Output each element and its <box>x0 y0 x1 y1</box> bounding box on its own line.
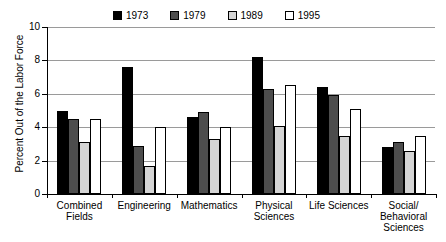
category-tick <box>112 194 113 198</box>
bar-1989 <box>274 126 285 194</box>
category-tick <box>242 194 243 198</box>
y-axis-tick <box>42 94 47 95</box>
bar-group <box>47 27 112 194</box>
legend-entry-1979: 1979 <box>170 11 205 21</box>
bar-1973 <box>252 57 263 194</box>
bar-1989 <box>339 136 350 194</box>
bar-1979 <box>68 119 79 194</box>
bar-chart: 1973197919891995 0246810 Percent Out of … <box>0 0 446 242</box>
bar-1989 <box>209 139 220 194</box>
category-label: Combined Fields <box>47 200 112 222</box>
bar-1979 <box>198 112 209 194</box>
bar-1979 <box>393 142 404 194</box>
legend-label: 1995 <box>298 11 320 21</box>
category-label: Engineering <box>112 200 177 211</box>
bar-group <box>242 27 307 194</box>
category-label: Mathematics <box>177 200 242 211</box>
legend-label: 1973 <box>126 11 148 21</box>
y-axis-tick <box>42 60 47 61</box>
category-label: Life Sciences <box>306 200 371 211</box>
bars-layer <box>47 27 436 194</box>
bar-1995 <box>155 127 166 194</box>
category-tick <box>436 194 437 198</box>
category-tick <box>177 194 178 198</box>
category-tick <box>306 194 307 198</box>
legend-label: 1979 <box>183 11 205 21</box>
bar-1973 <box>57 111 68 195</box>
bar-group <box>112 27 177 194</box>
category-tick <box>371 194 372 198</box>
bar-1973 <box>122 67 133 194</box>
bar-1979 <box>133 146 144 194</box>
chart-legend: 1973197919891995 <box>113 9 343 22</box>
legend-swatch-icon <box>113 11 122 20</box>
y-axis-tick <box>42 161 47 162</box>
category-label: Physical Sciences <box>242 200 307 222</box>
bar-1973 <box>317 87 328 194</box>
bar-1989 <box>79 142 90 194</box>
bar-group <box>306 27 371 194</box>
bar-1995 <box>90 119 101 194</box>
legend-entry-1995: 1995 <box>285 11 320 21</box>
bar-1979 <box>328 95 339 194</box>
legend-entry-1989: 1989 <box>228 11 263 21</box>
bar-group <box>371 27 436 194</box>
y-axis-tick-label: 0 <box>2 189 40 199</box>
legend-label: 1989 <box>241 11 263 21</box>
legend-swatch-icon <box>285 11 294 20</box>
y-axis-tick <box>42 127 47 128</box>
y-axis-tick <box>42 27 47 28</box>
legend-entry-1973: 1973 <box>113 11 148 21</box>
bar-1979 <box>263 89 274 194</box>
bar-1973 <box>382 147 393 194</box>
bar-1973 <box>187 117 198 194</box>
bar-1995 <box>350 109 361 194</box>
legend-swatch-icon <box>170 11 179 20</box>
bar-1995 <box>285 85 296 194</box>
y-axis-title: Percent Out of the Labor Force <box>14 29 25 179</box>
category-tick <box>47 194 48 198</box>
bar-group <box>177 27 242 194</box>
bar-1995 <box>220 127 231 194</box>
bar-1989 <box>404 151 415 194</box>
category-label: Social/ Behavioral Sciences <box>371 200 436 233</box>
bar-1995 <box>415 136 426 194</box>
bar-1989 <box>144 166 155 194</box>
legend-swatch-icon <box>228 11 237 20</box>
